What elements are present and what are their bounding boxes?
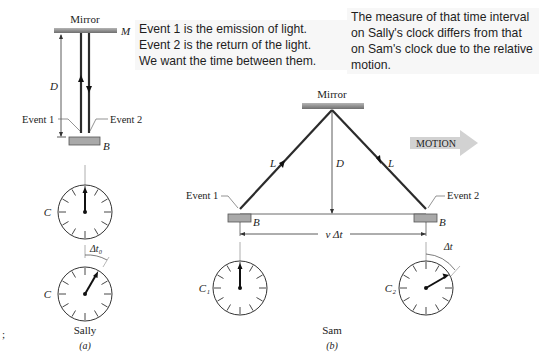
caption-a: (a) — [79, 340, 91, 352]
mirror-label-a: Mirror — [70, 13, 100, 25]
observer-sally: Sally — [74, 324, 97, 336]
clock-c1 — [213, 261, 267, 315]
arrow-down-icon — [86, 86, 92, 93]
arrowhead-icon — [240, 232, 245, 236]
box-b-a — [69, 137, 100, 145]
interval-label-b: Δt — [443, 241, 453, 252]
note-line: on Sam's clock due to the relative — [351, 41, 535, 57]
path-label-left: L — [269, 157, 276, 169]
box-symbol-a: B — [103, 140, 110, 152]
clock-c1-label: C₁ — [199, 282, 210, 294]
clock-c-label-top: C — [44, 206, 52, 218]
arrow-up-icon — [78, 75, 84, 82]
event2-label-a: Event 2 — [110, 114, 142, 125]
mirror-label-b: Mirror — [317, 88, 347, 100]
panel-b: Mirror L L D MOTION Event 1 Event 2 B B — [186, 88, 479, 352]
observer-sam: Sam — [322, 324, 342, 336]
box-b-right — [414, 214, 437, 222]
note-line: on Sally's clock differs from that — [351, 25, 535, 41]
box-symbol-left: B — [253, 216, 260, 228]
note-line: Event 2 is the return of the light. — [139, 37, 364, 53]
motion-label: MOTION — [416, 138, 456, 149]
clock-c2 — [399, 261, 453, 315]
arrowhead-icon — [330, 209, 334, 214]
note-events: Event 1 is the emission of light. Event … — [135, 20, 368, 70]
displacement-label: v Δt — [325, 228, 343, 240]
event1-label-a: Event 1 — [22, 114, 54, 125]
distance-label-b: D — [335, 157, 344, 169]
caption-b: (b) — [326, 340, 338, 352]
note-relative-motion: The measure of that time interval on Sal… — [347, 8, 539, 74]
clock-c-label-bottom: C — [44, 288, 52, 300]
panel-a: Mirror M D Event 1 Event 2 B — [22, 13, 142, 352]
box-b-left — [228, 214, 251, 222]
interval-arc-a — [85, 255, 107, 260]
event2-label-b: Event 2 — [447, 190, 479, 201]
event1-label-b: Event 1 — [186, 190, 218, 201]
light-path-left — [240, 110, 332, 209]
mirror-a — [54, 28, 117, 33]
note-line: The measure of that time interval — [351, 9, 535, 25]
mirror-b — [302, 103, 364, 109]
clock-c-top — [58, 185, 112, 239]
arrowhead-icon — [59, 34, 63, 39]
arrowhead-icon — [59, 132, 63, 137]
distance-label-a: D — [49, 80, 58, 92]
note-line: Event 1 is the emission of light. — [139, 21, 364, 37]
box-symbol-right: B — [439, 216, 446, 228]
mirror-symbol-m: M — [120, 25, 131, 37]
clock-c2-label: C₂ — [385, 282, 396, 294]
path-label-right: L — [387, 157, 394, 169]
clock-c-bottom — [58, 267, 112, 321]
arrowhead-icon — [421, 232, 426, 236]
interval-label-a: Δt₀ — [89, 243, 103, 254]
note-line: We want the time between them. — [139, 53, 364, 69]
note-line: motion. — [351, 57, 535, 73]
margin-mark: ; — [2, 328, 5, 340]
